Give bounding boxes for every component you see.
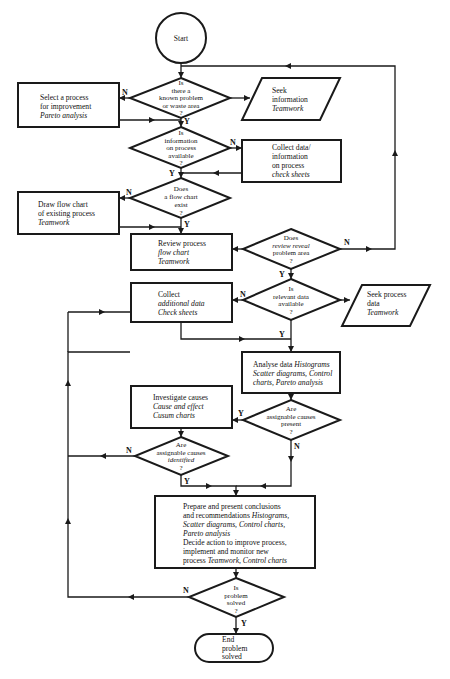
text-line: ? xyxy=(141,160,221,168)
process-analyse-text: Analyse data Histograms Scatter diagrams… xyxy=(253,360,332,387)
text-line: Decide action to improve process, xyxy=(183,538,289,547)
io-seek-information-text: Seek information Teamwork xyxy=(272,86,308,113)
no-label: N xyxy=(294,442,300,451)
decision-causes-present-text: Are assignable causes present ? xyxy=(251,406,331,436)
text-line: Draw flow chart xyxy=(38,200,95,209)
decision-review-reveals-text: Does review reveal problem area ? xyxy=(251,235,331,265)
process-select-text: Select a process for improvement Pareto … xyxy=(40,93,91,120)
tool-label: Check sheets xyxy=(158,308,205,317)
text-line: data xyxy=(367,299,406,308)
process-draw-flowchart-text: Draw flow chart of existing process Team… xyxy=(38,200,95,227)
yes-label: Y xyxy=(238,409,244,418)
start-label: Start xyxy=(156,34,206,43)
decision-problem-solved-text: Is problem solved ? xyxy=(196,585,276,615)
text-line: Seek xyxy=(272,86,308,95)
text-line: ? xyxy=(251,258,331,266)
no-label: N xyxy=(183,586,189,595)
process-collect-data-text: Collect data/ information on process che… xyxy=(272,143,311,179)
tool-label: Cause and effect xyxy=(153,402,208,411)
text-line: on process xyxy=(272,161,311,170)
text-line: implement and monitor new xyxy=(183,547,289,556)
text-line: ? xyxy=(251,429,331,437)
text-line: for improvement xyxy=(40,102,91,111)
text-line: of existing process xyxy=(38,209,95,218)
text-line: exist xyxy=(141,201,221,209)
no-label: N xyxy=(126,188,132,197)
yes-label: Y xyxy=(279,270,285,279)
text-line: ? xyxy=(141,465,221,473)
text-line: flow chart xyxy=(158,248,206,257)
tool-label: Pareto analysis xyxy=(40,111,91,120)
text-line: solved xyxy=(222,653,247,662)
decision-flowchart-exists-text: Does a flow chart exist ? xyxy=(141,185,221,217)
no-label: N xyxy=(240,290,246,299)
text-span: process xyxy=(183,556,208,565)
tool-label: Pareto analysis xyxy=(183,529,289,538)
process-investigate-text: Investigate causes Cause and effect Cusu… xyxy=(153,393,208,420)
tool-label: Histograms, xyxy=(252,511,289,520)
no-label: N xyxy=(126,446,132,455)
no-label: N xyxy=(122,88,128,97)
text-line: ? xyxy=(251,309,331,317)
text-line: Does xyxy=(141,185,221,193)
text-line: process Teamwork, Control charts xyxy=(183,556,289,565)
text-line: a flow chart xyxy=(141,193,221,201)
text-line: ? xyxy=(141,209,221,217)
process-collect-additional-text: Collect additional data Check sheets xyxy=(158,290,205,317)
tool-label: Teamwork xyxy=(367,308,406,317)
no-label: N xyxy=(344,238,350,247)
decision-known-problem-text: Is there a known problem or waste area ? xyxy=(141,80,221,118)
tool-label: Teamwork xyxy=(272,104,308,113)
tool-label: check sheets xyxy=(272,170,311,179)
io-seek-process-data-text: Seek process data Teamwork xyxy=(367,290,406,317)
text-line: Select a process xyxy=(40,93,91,102)
yes-label: Y xyxy=(184,117,190,126)
yes-label: Y xyxy=(279,330,285,339)
decision-info-available-text: Is information on process available ? xyxy=(141,130,221,168)
text-line: Collect xyxy=(158,290,205,299)
yes-label: Y xyxy=(184,220,190,229)
tool-label: Cusum charts xyxy=(153,411,208,420)
tool-label: Scatter diagrams, Control charts, xyxy=(183,520,289,529)
tool-label: Teamwork xyxy=(38,218,95,227)
text-line: Prepare and present conclusions xyxy=(183,502,289,511)
text-line: Seek process xyxy=(367,290,406,299)
yes-label: Y xyxy=(169,169,175,178)
decision-relevant-data-text: Is relevant data available ? xyxy=(251,286,331,316)
tool-label: Scatter diagrams, Control xyxy=(253,369,332,378)
tool-label: Teamwork, Control charts xyxy=(208,556,287,565)
yes-label: Y xyxy=(241,619,247,628)
text-line: Collect data/ xyxy=(272,143,311,152)
tool-label: Teamwork xyxy=(158,257,206,266)
text-line: information xyxy=(272,95,308,104)
text-line: Review process xyxy=(158,239,206,248)
text-line: Analyse data Histograms xyxy=(253,360,332,369)
decision-causes-identified-text: Are assignable causes identified ? xyxy=(141,442,221,472)
text-line: ? xyxy=(141,110,221,118)
process-prepare-text: Prepare and present conclusions and reco… xyxy=(183,502,289,565)
yes-label: Y xyxy=(184,477,190,486)
end-node-text: End problem solved xyxy=(222,636,247,662)
text-span: Analyse data xyxy=(253,360,294,369)
text-line: additional data xyxy=(158,299,205,308)
tool-label: charts, Pareto analysis xyxy=(253,378,332,387)
text-line: and recommendations Histograms, xyxy=(183,511,289,520)
text-line: information xyxy=(272,152,311,161)
tool-label: Histograms xyxy=(294,360,329,369)
process-review-text: Review process flow chart Teamwork xyxy=(158,239,206,266)
text-line: ? xyxy=(196,608,276,616)
text-line: Investigate causes xyxy=(153,393,208,402)
no-label: N xyxy=(230,138,236,147)
text-span: and recommendations xyxy=(183,511,252,520)
